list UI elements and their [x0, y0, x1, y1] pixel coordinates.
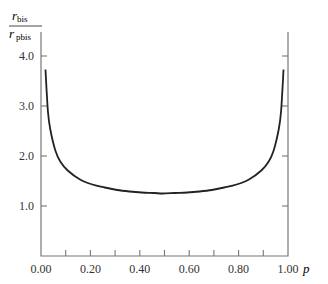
axis-frame	[41, 32, 288, 256]
axes	[41, 32, 288, 256]
y-label-numerator: rbis	[12, 8, 28, 24]
y-tick-label: 4.0	[19, 49, 34, 63]
x-tick-label: 0.80	[228, 262, 249, 276]
x-tick-label: 0.40	[129, 262, 150, 276]
x-tick-label: 1.00	[278, 262, 299, 276]
ratio-curve	[45, 70, 283, 194]
x-axis-label: p	[302, 261, 310, 276]
chart: 1.02.03.04.00.000.200.400.600.801.00 rbi…	[0, 0, 328, 284]
y-tick-label: 1.0	[19, 199, 34, 213]
y-label-denominator: rpbis	[9, 26, 32, 42]
y-tick-label: 2.0	[19, 149, 34, 163]
y-axis-label: rbis rpbis	[9, 8, 42, 42]
y-tick-label: 3.0	[19, 99, 34, 113]
axis-ticks	[41, 56, 288, 256]
x-tick-label: 0.20	[80, 262, 101, 276]
x-tick-label: 0.00	[31, 262, 52, 276]
x-tick-label: 0.60	[179, 262, 200, 276]
